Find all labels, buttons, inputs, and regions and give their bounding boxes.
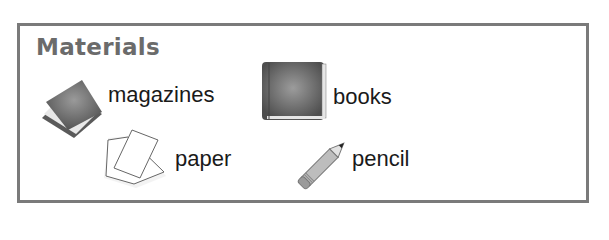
- magazines-icon: [38, 72, 108, 140]
- book-icon: [262, 61, 328, 123]
- paper-label: paper: [175, 146, 231, 172]
- magazines-label: magazines: [108, 82, 214, 108]
- pencil-label: pencil: [352, 146, 409, 172]
- paper-icon: [100, 126, 170, 192]
- materials-title: Materials: [36, 34, 160, 60]
- pencil-icon: [292, 132, 356, 194]
- books-label: books: [333, 84, 392, 110]
